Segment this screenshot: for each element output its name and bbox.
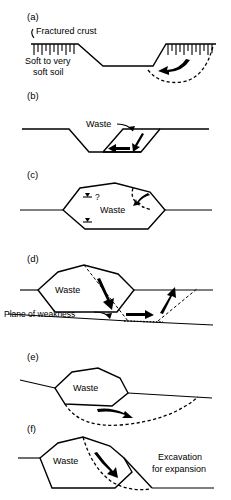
panel-e-label: (e) — [27, 351, 39, 362]
soft-soil-label-line1: Soft to very — [25, 56, 71, 66]
slip-surface-f — [83, 437, 150, 490]
waste-label-f: Waste — [53, 456, 78, 466]
plane-of-weakness-label-d: Plane of weakness — [4, 309, 75, 319]
excavation-slope-f — [124, 458, 152, 488]
panel-d: (d) Plane of weakness Waste — [4, 253, 213, 325]
panel-c-label: (c) — [27, 169, 38, 180]
panel-a-label: (a) — [27, 11, 39, 22]
waste-body-d — [38, 265, 134, 312]
thrust-arrow-d — [126, 310, 154, 319]
panel-c: (c) ? Waste — [20, 169, 212, 229]
figure-svg: (a) Fractured crust — [0, 0, 231, 500]
panel-e: (e) Waste — [20, 351, 212, 425]
ground-left-e — [20, 380, 55, 388]
soft-soil-label-line2: soft soil — [33, 67, 64, 77]
waste-label-e: Waste — [73, 383, 98, 393]
heave-arrow-d — [160, 287, 176, 314]
excavation-label-line2-f: for expansion — [152, 464, 206, 474]
sliding-arrow-f — [94, 452, 118, 478]
ground-right-e — [128, 393, 212, 398]
waste-label-b: Waste — [86, 119, 111, 129]
plane-of-weakness-arrowhead-d — [105, 313, 112, 319]
panel-d-label: (d) — [27, 253, 39, 264]
question-mark-c: ? — [95, 192, 100, 202]
movement-arrow-a — [158, 59, 190, 75]
panel-b-label: (b) — [27, 90, 39, 101]
settlement-arrow-b — [132, 133, 144, 152]
movement-arrow-e — [97, 409, 133, 419]
figure-container: (a) Fractured crust — [0, 0, 231, 500]
panel-b: (b) Waste — [22, 90, 209, 153]
water-table-symbol-upper-c — [83, 193, 92, 197]
water-table-symbol-lower-c — [83, 218, 92, 222]
panel-f: (f) Waste Excavation for expansion — [18, 423, 214, 490]
passive-wedge-plane-d — [158, 288, 198, 321]
waste-label-d: Waste — [55, 285, 80, 295]
fractured-crust-hatch-right — [168, 44, 212, 55]
panel-f-label: (f) — [27, 423, 36, 434]
slip-surface-e — [65, 397, 198, 425]
waste-label-c: Waste — [100, 205, 125, 215]
panel-a: (a) Fractured crust — [25, 11, 216, 83]
fractured-crust-leader — [32, 29, 34, 38]
sliding-arrow-d — [97, 278, 114, 310]
excavation-label-line1-f: Excavation — [158, 452, 202, 462]
fractured-crust-hatch-left — [34, 44, 74, 55]
fractured-crust-label: Fractured crust — [36, 26, 97, 36]
movement-arrow-c — [133, 193, 150, 206]
